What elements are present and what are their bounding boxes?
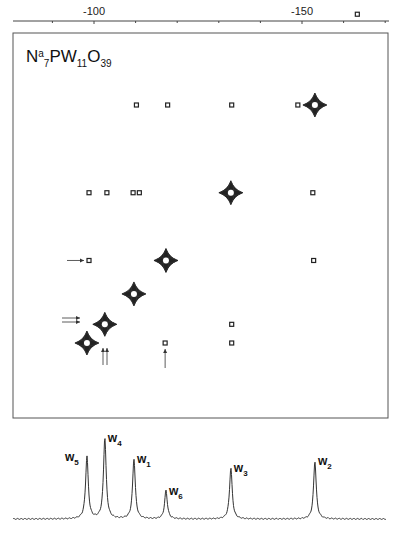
arrow-head [105, 348, 109, 352]
diagonal-peak-w6 [154, 248, 178, 272]
peak-center [312, 102, 318, 108]
projection-spectrum: w5w4w1w6w3w2 [13, 431, 386, 519]
peak-label-letter: w [317, 454, 328, 468]
cross-peak [137, 191, 141, 195]
diagonal-peak-w5 [75, 331, 99, 355]
peak-label-w6: w6 [168, 484, 183, 501]
diagonal-peak-w3 [219, 181, 243, 205]
tick-label-minus-100: -100 [83, 5, 105, 17]
peak-center [228, 190, 234, 196]
diagonal-peaks [75, 93, 327, 355]
peak-center [84, 340, 90, 346]
diagonal-peak-w2 [303, 93, 327, 117]
arrow-head [163, 349, 167, 353]
peak-label-subscript: 1 [146, 460, 151, 469]
arrow-head [76, 316, 80, 320]
peak-label-subscript: 5 [74, 458, 79, 467]
compound-title: Na7PW11O39 [26, 47, 112, 69]
peak-label-w1: w1 [136, 452, 151, 469]
title-sub-11: 11 [77, 58, 88, 69]
title-sub-39: 39 [100, 58, 112, 69]
diagonal-peak-w1 [122, 282, 146, 306]
cross-peak [87, 191, 91, 195]
cross-peak [131, 191, 135, 195]
peak-label-letter: w [64, 450, 75, 464]
cross-peak [355, 12, 359, 16]
cross-peak [134, 103, 138, 107]
tick-label-minus-150: -150 [291, 5, 313, 17]
peak-label-subscript: 6 [178, 492, 183, 501]
title-o: O [87, 47, 100, 66]
peak-label-w5: w5 [64, 450, 79, 467]
nmr-figure: -100 -150 Na7PW11O39 w5w4w1w6w3w2 [0, 0, 398, 534]
plot-frame [13, 33, 388, 418]
peak-label-subscript: 4 [117, 439, 122, 448]
cross-peak [166, 103, 170, 107]
cross-peak [311, 191, 315, 195]
peak-label-w3: w3 [233, 461, 248, 478]
peak-label-w2: w2 [317, 454, 332, 471]
arrow-head [101, 348, 105, 352]
arrow-head [80, 258, 84, 262]
cross-peak [230, 103, 234, 107]
title-pw: PW [49, 47, 76, 66]
peak-label-w4: w4 [107, 431, 122, 448]
peak-label-letter: w [107, 431, 118, 445]
arrow-head [76, 320, 80, 324]
diagonal-peak-w4 [93, 312, 117, 336]
annotation-arrows [62, 258, 167, 368]
cross-peak [105, 191, 109, 195]
peak-center [102, 321, 108, 327]
x-axis-top: -100 -150 [13, 5, 389, 24]
cross-peak [312, 258, 316, 262]
peak-label-subscript: 3 [243, 469, 248, 478]
title-n: N [26, 47, 38, 66]
cross-peak [230, 322, 234, 326]
cross-peak [296, 103, 300, 107]
cross-peak [230, 341, 234, 345]
peak-center [131, 291, 137, 297]
peak-label-letter: w [233, 461, 244, 475]
peak-center [163, 257, 169, 263]
cross-peak [163, 341, 167, 345]
cross-peak [87, 258, 91, 262]
peak-label-subscript: 2 [327, 462, 332, 471]
